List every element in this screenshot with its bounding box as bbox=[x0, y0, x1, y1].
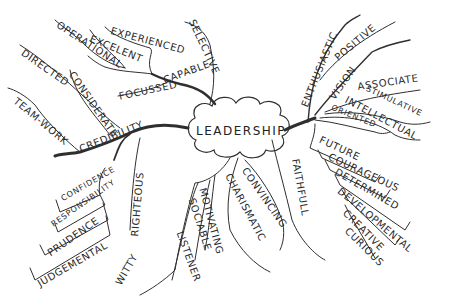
mind-map: LEADERSHIP CAPABLE SELECTIVE EXPERIENCED… bbox=[0, 0, 451, 299]
branch-lines bbox=[0, 0, 451, 299]
central-topic: LEADERSHIP bbox=[196, 124, 286, 138]
